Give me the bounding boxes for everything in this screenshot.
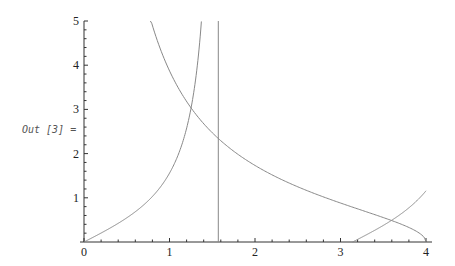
curve-0: [353, 191, 426, 242]
axes: 0123412345: [73, 14, 432, 259]
x-tick-label: 1: [167, 245, 173, 259]
y-tick-label: 4: [73, 58, 79, 72]
y-tick-label: 1: [73, 191, 79, 205]
y-tick-label: 5: [73, 14, 79, 28]
y-tick-label: 3: [73, 102, 79, 116]
x-tick-label: 3: [338, 245, 344, 259]
x-tick-label: 0: [81, 245, 87, 259]
y-tick-label: 2: [73, 147, 79, 161]
plot-area: 0123412345: [0, 0, 455, 266]
curve-0: [84, 21, 201, 242]
curve-1: [150, 21, 426, 242]
x-tick-label: 4: [423, 245, 429, 259]
x-tick-label: 2: [252, 245, 258, 259]
curves: [84, 21, 426, 242]
